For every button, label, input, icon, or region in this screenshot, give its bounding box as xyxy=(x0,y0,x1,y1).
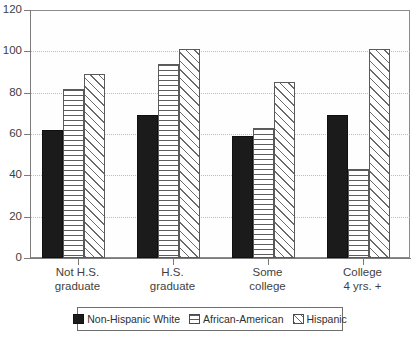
y-axis-tick-label: 40 xyxy=(0,168,22,180)
category-label-line: graduate xyxy=(30,280,125,294)
category-label-line: Some xyxy=(220,266,315,280)
category-label-line: 4 yrs. + xyxy=(315,280,410,294)
bar xyxy=(158,64,179,258)
y-axis-tick xyxy=(24,258,31,259)
x-axis-tick xyxy=(268,258,269,265)
bar xyxy=(63,89,84,258)
x-axis-category-label: Somecollege xyxy=(220,266,315,293)
legend-entry: African-American xyxy=(189,313,284,325)
y-axis-tick-label: 20 xyxy=(0,210,22,222)
y-axis-tick xyxy=(24,217,31,218)
y-axis-tick-label: 120 xyxy=(0,3,22,15)
bar xyxy=(42,130,63,258)
category-label-line: H.S. xyxy=(125,266,220,280)
y-axis-tick xyxy=(24,93,31,94)
y-axis-tick xyxy=(24,10,31,11)
y-axis-tick-label: 100 xyxy=(0,44,22,56)
x-axis-category-label: College4 yrs. + xyxy=(315,266,410,293)
bar xyxy=(369,49,390,258)
category-label-line: Not H.S. xyxy=(30,266,125,280)
bar xyxy=(253,128,274,258)
x-axis-tick xyxy=(78,258,79,265)
legend-swatch-white-series xyxy=(73,314,84,324)
legend-label: Non-Hispanic White xyxy=(87,313,180,325)
y-axis-tick xyxy=(24,51,31,52)
y-axis-tick-label: 60 xyxy=(0,127,22,139)
category-label-line: graduate xyxy=(125,280,220,294)
bar xyxy=(179,49,200,258)
category-label-line: College xyxy=(315,266,410,280)
bar-chart-figure: 020406080100120 Not H.S.graduateH.S.grad… xyxy=(0,0,419,340)
bar xyxy=(137,115,158,258)
y-axis-tick xyxy=(24,175,31,176)
legend-swatch-aa-series xyxy=(189,314,200,324)
x-axis-category-label: Not H.S.graduate xyxy=(30,266,125,293)
x-axis-line xyxy=(30,258,411,259)
gridline xyxy=(31,51,410,52)
bar xyxy=(274,82,295,258)
x-axis-tick xyxy=(173,258,174,265)
y-axis-tick-label: 80 xyxy=(0,86,22,98)
legend-swatch-hisp-series xyxy=(293,314,304,324)
x-axis-tick xyxy=(363,258,364,265)
y-axis-tick-label: 0 xyxy=(0,251,22,263)
x-axis-category-label: H.S.graduate xyxy=(125,266,220,293)
bar xyxy=(232,136,253,258)
bar xyxy=(84,74,105,258)
legend-entry: Hispanic xyxy=(293,313,347,325)
legend-label: Hispanic xyxy=(307,313,347,325)
category-label-line: college xyxy=(220,280,315,294)
chart-legend: Non-Hispanic WhiteAfrican-AmericanHispan… xyxy=(77,307,343,331)
legend-entry: Non-Hispanic White xyxy=(73,313,180,325)
bar xyxy=(327,115,348,258)
bar xyxy=(348,169,369,258)
y-axis-tick xyxy=(24,134,31,135)
legend-label: African-American xyxy=(203,313,284,325)
